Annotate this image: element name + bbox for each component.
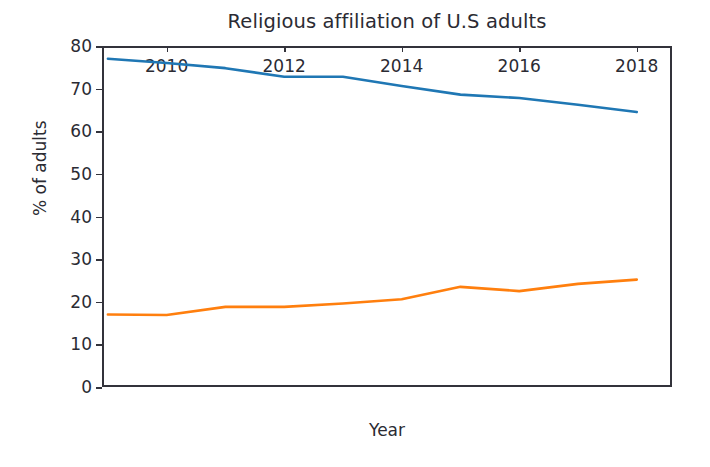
y-tick-label: 0 bbox=[81, 377, 92, 397]
y-tick-mark bbox=[96, 387, 102, 389]
y-tick-label: 80 bbox=[70, 36, 92, 56]
chart-title: Religious affiliation of U.S adults bbox=[102, 10, 672, 33]
y-tick-label: 50 bbox=[70, 164, 92, 184]
y-tick-label: 20 bbox=[70, 292, 92, 312]
series-line-christian bbox=[108, 59, 637, 112]
y-axis-label: % of adults bbox=[30, 120, 50, 216]
y-tick-label: 60 bbox=[70, 121, 92, 141]
x-axis-label: Year bbox=[102, 420, 672, 440]
series-line-unaffiliated bbox=[108, 280, 637, 315]
data-lines bbox=[102, 46, 672, 387]
plot-area: 01020304050607080 20102012201420162018 bbox=[102, 46, 672, 387]
y-tick-label: 30 bbox=[70, 249, 92, 269]
chart-figure: Religious affiliation of U.S adults % of… bbox=[0, 0, 710, 467]
y-tick-label: 40 bbox=[70, 207, 92, 227]
y-tick-label: 10 bbox=[70, 334, 92, 354]
y-tick-label: 70 bbox=[70, 79, 92, 99]
